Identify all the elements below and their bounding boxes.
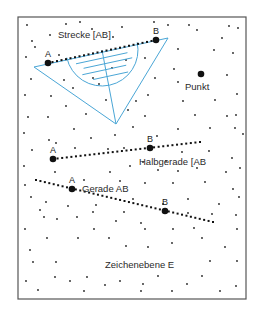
- scatter-dot: [46, 237, 48, 239]
- scatter-dot: [119, 280, 121, 282]
- scatter-dot: [31, 40, 33, 42]
- scatter-dot: [114, 134, 116, 136]
- scatter-dot: [47, 116, 49, 118]
- point-halbgerade-b: B: [147, 134, 154, 151]
- scatter-dot: [69, 280, 71, 282]
- scatter-dot: [98, 83, 100, 85]
- scatter-dot: [144, 182, 146, 184]
- scatter-dot: [235, 285, 237, 287]
- scatter-dot: [140, 222, 142, 224]
- scatter-dot: [172, 228, 174, 230]
- scatter-dot: [232, 52, 234, 54]
- point-label: B: [153, 26, 159, 36]
- point-label: A: [69, 175, 75, 185]
- point-gerade-b: B: [162, 197, 169, 214]
- scatter-dot: [54, 171, 56, 173]
- point-punkt: [198, 71, 205, 78]
- scatter-dot: [24, 228, 26, 230]
- scatter-dot: [63, 79, 65, 81]
- scatter-dot: [224, 246, 226, 248]
- scatter-dot: [154, 77, 156, 79]
- scatter-dot: [55, 261, 57, 263]
- scatter-dot: [58, 54, 60, 56]
- scatter-dot: [209, 127, 211, 129]
- scatter-dot: [50, 95, 52, 97]
- scatter-dot: [193, 227, 195, 229]
- scatter-dot: [105, 99, 107, 101]
- geometry-diagram: ABABAB Strecke [AB] Punkt Halbgerade [AB…: [0, 0, 263, 323]
- point-strecke-b: B: [153, 26, 160, 43]
- scatter-dot: [39, 209, 41, 211]
- scatter-dot: [201, 237, 203, 239]
- scatter-dot: [123, 147, 125, 149]
- scatter-dot: [25, 280, 27, 282]
- scatter-dot: [67, 205, 69, 207]
- point-label: A: [50, 145, 56, 155]
- scatter-dot: [24, 94, 26, 96]
- scatter-dot: [74, 147, 76, 149]
- label-zeichenebene: Zeichenebene E: [105, 259, 174, 270]
- scatter-dot: [218, 203, 220, 205]
- scatter-dot: [92, 211, 94, 213]
- scatter-dot: [235, 114, 237, 116]
- scatter-dot: [55, 142, 57, 144]
- scatter-dot: [140, 290, 142, 292]
- scatter-dot: [187, 212, 189, 214]
- scatter-dot: [153, 21, 155, 23]
- scatter-dot: [182, 100, 184, 102]
- scatter-dot: [157, 275, 159, 277]
- scatter-dot: [90, 137, 92, 139]
- scatter-dot: [196, 167, 198, 169]
- scatter-dot: [144, 57, 146, 59]
- scatter-dot: [125, 245, 127, 247]
- scatter-dot: [238, 196, 240, 198]
- scatter-dot: [144, 115, 146, 117]
- scatter-dot: [147, 246, 149, 248]
- scatter-dot: [194, 114, 196, 116]
- scatter-dot: [235, 214, 237, 216]
- scatter-dot: [79, 21, 81, 23]
- scatter-dot: [177, 170, 179, 172]
- scatter-dot: [171, 242, 173, 244]
- scatter-dot: [107, 148, 109, 150]
- scatter-dot: [144, 228, 146, 230]
- label-punkt: Punkt: [185, 81, 210, 92]
- scatter-dot: [239, 167, 241, 169]
- scatter-dot: [129, 165, 131, 167]
- scatter-dot: [119, 180, 121, 182]
- scatter-dot: [156, 135, 158, 137]
- point-strecke-a: A: [45, 49, 52, 66]
- scatter-dot: [24, 184, 26, 186]
- label-strecke: Strecke [AB]: [58, 29, 111, 40]
- scatter-dot: [30, 78, 32, 80]
- scatter-dot: [25, 56, 27, 58]
- scatter-dot: [109, 171, 111, 173]
- scatter-dot: [32, 261, 34, 263]
- scatter-dot: [142, 283, 144, 285]
- scatter-dot: [48, 139, 50, 141]
- scatter-dot: [34, 46, 36, 48]
- scatter-dot: [242, 133, 244, 135]
- label-gerade: Gerade AB: [82, 183, 128, 194]
- scatter-dot: [86, 276, 88, 278]
- scatter-dot: [30, 196, 32, 198]
- scatter-dot: [177, 81, 179, 83]
- scatter-dot: [26, 24, 28, 26]
- scatter-dot: [211, 213, 213, 215]
- scatter-dot: [172, 182, 174, 184]
- scatter-dot: [121, 26, 123, 28]
- scatter-dot: [85, 113, 87, 115]
- scatter-dot: [127, 109, 129, 111]
- scatter-dot: [213, 49, 215, 51]
- point-label: B: [147, 134, 153, 144]
- scatter-dot: [181, 151, 183, 153]
- scatter-dot: [201, 275, 203, 277]
- scatter-dot: [23, 165, 25, 167]
- scatter-dot: [108, 237, 110, 239]
- scatter-dot: [37, 289, 39, 291]
- scatter-dot: [65, 23, 67, 25]
- scatter-dot: [45, 201, 47, 203]
- scatter-dot: [115, 220, 117, 222]
- scatter-dot: [95, 204, 97, 206]
- scatter-dot: [236, 228, 238, 230]
